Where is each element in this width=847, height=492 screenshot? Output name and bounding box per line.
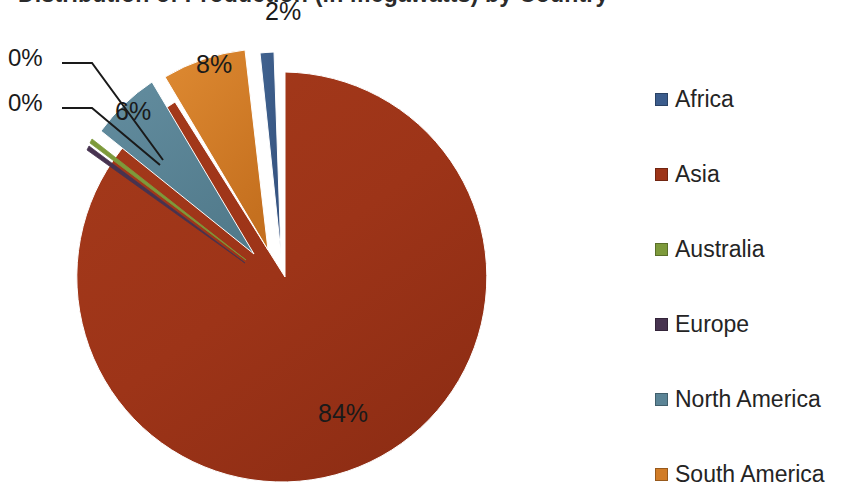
slice-label-africa: 2% [265,0,301,26]
legend-item-africa[interactable]: Africa [655,86,734,112]
chart-page: Distribution of Production (in megawatts… [0,0,847,492]
legend-label: North America [675,388,821,411]
slice-label-north-america: 6% [115,97,151,126]
legend-swatch-icon [655,468,668,481]
legend-swatch-icon [655,318,668,331]
legend-item-asia[interactable]: Asia [655,161,720,187]
slice-label-europe: 0% [8,89,43,117]
legend-label: South America [675,463,825,486]
legend-swatch-icon [655,393,668,406]
chart-legend: Africa Asia Australia Europe North Ameri… [655,80,847,492]
legend-item-north-america[interactable]: North America [655,386,821,412]
legend-label: Australia [675,238,764,261]
pie-chart: 2% 8% 6% 0% 0% 84% [0,0,640,492]
legend-item-australia[interactable]: Australia [655,236,764,262]
legend-item-europe[interactable]: Europe [655,311,749,337]
slice-label-australia: 0% [8,44,43,72]
slice-label-south-america: 8% [196,50,232,79]
slice-label-asia: 84% [318,399,368,428]
legend-swatch-icon [655,168,668,181]
legend-swatch-icon [655,243,668,256]
legend-label: Asia [675,163,720,186]
legend-label: Europe [675,313,749,336]
legend-label: Africa [675,88,734,111]
legend-item-south-america[interactable]: South America [655,461,825,487]
legend-swatch-icon [655,93,668,106]
